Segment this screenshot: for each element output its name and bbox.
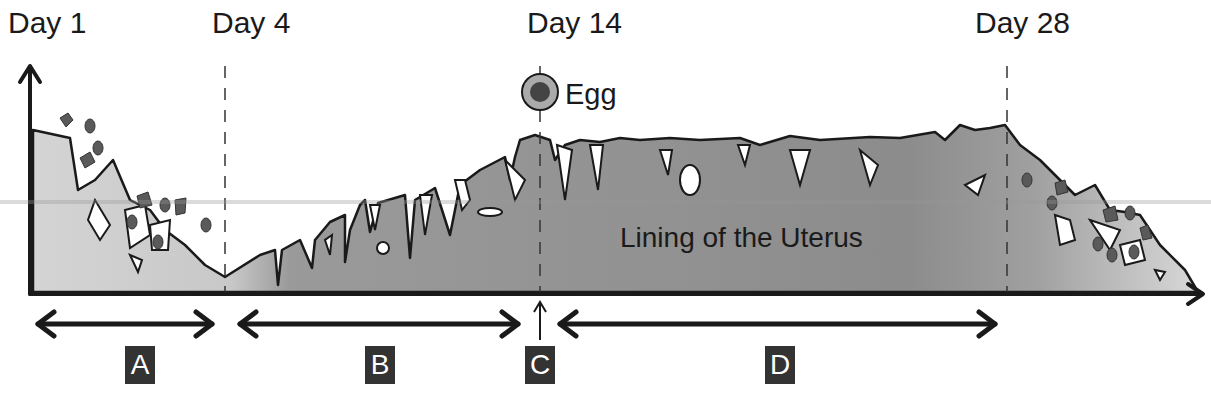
diagram-canvas bbox=[0, 0, 1211, 404]
phase-label-d: D bbox=[765, 346, 795, 384]
day-label-14: Day 14 bbox=[527, 6, 622, 40]
overlay-line bbox=[0, 200, 1211, 204]
uterus-lining-shape bbox=[33, 125, 1198, 292]
phase-label-a: A bbox=[125, 346, 155, 384]
phase-label-c: C bbox=[525, 346, 555, 384]
lining-label: Lining of the Uterus bbox=[620, 222, 863, 254]
egg-label: Egg bbox=[565, 78, 617, 111]
phase-label-b: B bbox=[365, 346, 395, 384]
egg-icon bbox=[522, 74, 558, 110]
day-label-28: Day 28 bbox=[975, 6, 1070, 40]
day-label-1: Day 1 bbox=[8, 6, 86, 40]
ovulation-arrow bbox=[534, 302, 546, 340]
phase-range-arrows bbox=[38, 312, 995, 336]
day-label-4: Day 4 bbox=[212, 6, 290, 40]
